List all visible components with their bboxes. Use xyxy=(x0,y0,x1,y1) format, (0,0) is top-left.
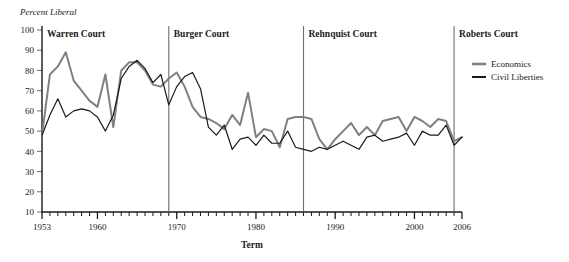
y-tick-label-100: 100 xyxy=(21,25,35,35)
x-tick-label-1953: 1953 xyxy=(33,222,52,232)
y-tick-label-10: 10 xyxy=(25,207,35,217)
legend-label-economics: Economics xyxy=(491,59,531,69)
y-tick-label-70: 70 xyxy=(25,86,35,96)
y-tick-label-20: 20 xyxy=(25,187,35,197)
era-rehnquist-label: Rehnquist Court xyxy=(309,29,378,39)
chart-figure: Percent Liberal 102030405060708090100 19… xyxy=(0,0,569,262)
era-burger-label: Burger Court xyxy=(174,29,230,39)
x-tick-label-1980: 1980 xyxy=(247,222,266,232)
y-axis-title: Percent Liberal xyxy=(19,7,77,17)
y-tick-label-60: 60 xyxy=(25,106,35,116)
era-warren-label: Warren Court xyxy=(47,29,106,39)
y-tick-label-50: 50 xyxy=(25,126,35,136)
y-tick-label-90: 90 xyxy=(25,45,35,55)
x-tick-label-1960: 1960 xyxy=(88,222,107,232)
x-tick-label-1990: 1990 xyxy=(326,222,345,232)
y-tick-label-80: 80 xyxy=(25,66,35,76)
y-tick-label-30: 30 xyxy=(25,167,35,177)
legend-label-civil-liberties: Civil Liberties xyxy=(491,72,544,82)
x-tick-label-1970: 1970 xyxy=(168,222,187,232)
y-tick-label-40: 40 xyxy=(25,147,35,157)
era-roberts-label: Roberts Court xyxy=(459,29,519,39)
x-tick-label-2000: 2000 xyxy=(405,222,424,232)
percent-liberal-line-chart: Percent Liberal 102030405060708090100 19… xyxy=(0,0,569,262)
x-axis-title: Term xyxy=(241,240,263,250)
x-tick-label-2006: 2006 xyxy=(453,222,472,232)
